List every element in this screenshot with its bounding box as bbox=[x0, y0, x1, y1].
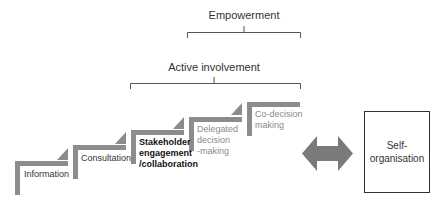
step-stakeholder-label: Stakeholder engagement /collaboration bbox=[139, 137, 198, 170]
active-involvement-label: Active involvement bbox=[168, 61, 260, 73]
self-organisation-box: Self- organisation bbox=[364, 111, 430, 193]
empowerment-bracket bbox=[188, 26, 301, 38]
label-line: organisation bbox=[370, 152, 424, 165]
label-line: Stakeholder bbox=[139, 137, 198, 148]
label-line: engagement bbox=[139, 148, 198, 159]
label-line: decision bbox=[197, 135, 238, 146]
label-line: /collaboration bbox=[139, 159, 198, 170]
step-consultation-label: Consultation bbox=[81, 153, 131, 164]
label-line: Co-decision bbox=[255, 109, 303, 120]
label-line: Self- bbox=[370, 139, 424, 152]
label-line: making bbox=[255, 120, 303, 131]
double-arrow-icon bbox=[302, 136, 353, 171]
label-line: -making bbox=[197, 146, 238, 157]
empowerment-label: Empowerment bbox=[209, 9, 280, 21]
label-line: Delegated bbox=[197, 124, 238, 135]
step-delegated-label: Delegated decision -making bbox=[197, 124, 238, 157]
active-involvement-bracket bbox=[131, 77, 301, 89]
step-codecision-label: Co-decision making bbox=[255, 109, 303, 131]
step-information-label: Information bbox=[24, 169, 69, 180]
